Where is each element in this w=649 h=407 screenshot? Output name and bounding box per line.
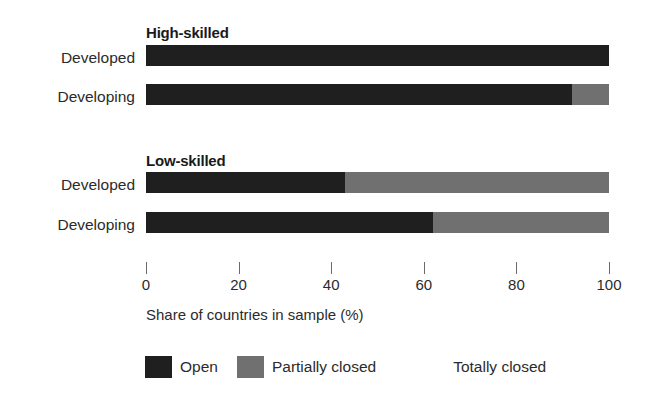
row-label-low-developed: Developed xyxy=(5,176,135,194)
group-title-low-skilled: Low-skilled xyxy=(146,152,225,169)
bar-segment-partially-closed xyxy=(572,84,609,105)
x-tick-label-40: 40 xyxy=(323,276,340,293)
bar-segment-open xyxy=(146,45,609,66)
bar-segment-open xyxy=(146,212,433,233)
x-tick-20 xyxy=(239,262,240,274)
chart-legend: Open Partially closed Totally closed xyxy=(145,354,546,380)
legend-swatch-open-icon xyxy=(145,356,172,378)
x-tick-label-80: 80 xyxy=(508,276,525,293)
x-tick-label-20: 20 xyxy=(230,276,247,293)
group-title-high-skilled: High-skilled xyxy=(146,24,229,41)
bar-segment-partially-closed xyxy=(345,172,609,193)
bar-segment-open xyxy=(146,172,345,193)
legend-swatch-totally-closed-icon xyxy=(418,356,445,378)
row-label-high-developing: Developing xyxy=(5,88,135,106)
legend-swatch-partially-closed-icon xyxy=(237,356,264,378)
x-tick-label-0: 0 xyxy=(142,276,150,293)
x-tick-40 xyxy=(331,262,332,274)
legend-label-partially-closed: Partially closed xyxy=(272,358,376,376)
bar-low-developed xyxy=(146,172,609,193)
stacked-bar-chart: High-skilled Developed Developing Low-sk… xyxy=(0,0,649,407)
x-tick-label-100: 100 xyxy=(596,276,621,293)
bar-segment-open xyxy=(146,84,572,105)
bar-low-developing xyxy=(146,212,609,233)
x-tick-80 xyxy=(516,262,517,274)
x-tick-0 xyxy=(146,262,147,274)
bar-high-developed xyxy=(146,45,609,66)
x-tick-60 xyxy=(424,262,425,274)
row-label-low-developing: Developing xyxy=(5,216,135,234)
bar-segment-partially-closed xyxy=(433,212,609,233)
x-tick-label-60: 60 xyxy=(415,276,432,293)
x-axis-label: Share of countries in sample (%) xyxy=(146,306,364,323)
legend-label-totally-closed: Totally closed xyxy=(453,358,546,376)
x-axis: 0 20 40 60 80 100 xyxy=(146,262,609,302)
bar-high-developing xyxy=(146,84,609,105)
legend-label-open: Open xyxy=(180,358,218,376)
row-label-high-developed: Developed xyxy=(5,49,135,67)
legend-item-partially-closed: Partially closed xyxy=(237,356,376,378)
legend-item-open: Open xyxy=(145,356,218,378)
x-tick-100 xyxy=(609,262,610,274)
legend-item-totally-closed: Totally closed xyxy=(418,356,546,378)
